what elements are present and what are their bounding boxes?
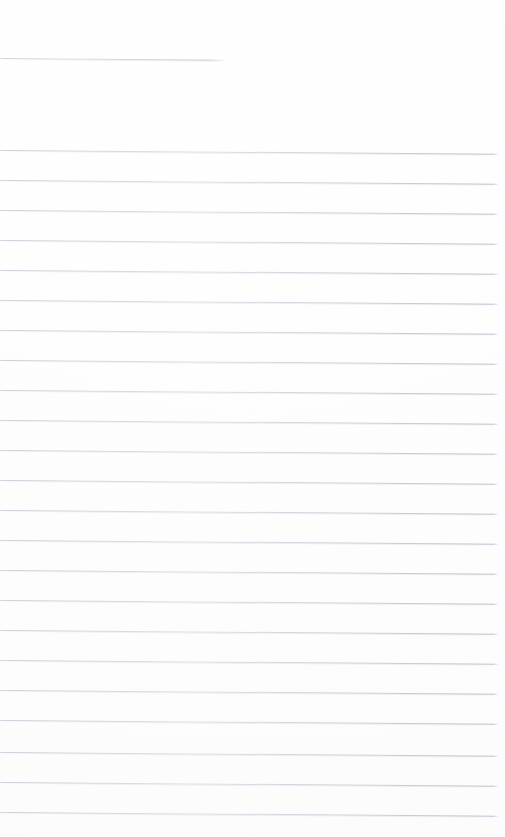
rule-line — [0, 720, 498, 725]
rule-line — [0, 270, 498, 275]
rule-line — [0, 812, 498, 817]
rule-line — [0, 180, 498, 185]
rule-line — [0, 210, 498, 215]
rule-line — [0, 600, 498, 605]
rule-line — [0, 240, 498, 245]
rule-line — [0, 420, 498, 425]
rule-line — [0, 570, 498, 575]
rule-line — [0, 390, 498, 395]
rule-line — [0, 752, 498, 757]
header-rule-line — [0, 58, 225, 61]
rule-line — [0, 450, 498, 455]
rule-line — [0, 480, 498, 485]
rule-line — [0, 330, 498, 335]
rule-line — [0, 690, 498, 695]
rule-line — [0, 540, 498, 545]
rule-line — [0, 630, 498, 635]
ruled-lines-layer — [0, 0, 505, 837]
rule-line — [0, 782, 498, 787]
scanned-page — [0, 0, 505, 837]
rule-line — [0, 660, 498, 665]
rule-line — [0, 510, 498, 515]
rule-line — [0, 360, 498, 365]
rule-line — [0, 300, 498, 305]
rule-line — [0, 150, 498, 155]
